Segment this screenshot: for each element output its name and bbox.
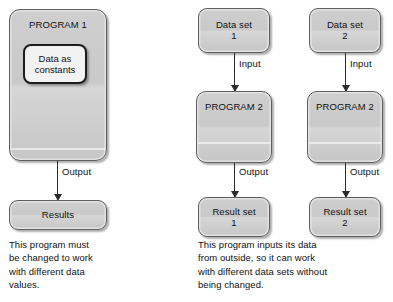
output-arrow-1-label: Output xyxy=(239,166,268,177)
data-as-constants-box: Data as constants xyxy=(23,44,87,84)
results-label: Results xyxy=(42,209,74,220)
program-2-box-2: PROGRAM 2 xyxy=(307,91,383,163)
output-arrow-2-icon xyxy=(345,163,346,197)
result-set-1-box: Result set 1 xyxy=(198,197,270,237)
input-arrow-1-icon xyxy=(234,53,235,91)
right-caption: This program inputs its data from outsid… xyxy=(198,238,388,292)
input-arrow-2-label: Input xyxy=(350,58,372,69)
output-arrow-2-label: Output xyxy=(350,166,379,177)
left-output-arrow-icon xyxy=(57,161,58,200)
program-2-label-2: PROGRAM 2 xyxy=(316,101,374,112)
data-set-2-box: Data set 2 xyxy=(309,8,381,53)
program-2-box-1: PROGRAM 2 xyxy=(196,91,272,163)
result-set-1-label: Result set 1 xyxy=(212,206,255,228)
program-2-label-1: PROGRAM 2 xyxy=(205,101,263,112)
data-set-1-label: Data set 1 xyxy=(216,19,252,41)
program-1-label: PROGRAM 1 xyxy=(29,19,87,30)
data-set-2-label: Data set 2 xyxy=(327,19,363,41)
output-arrow-1-icon xyxy=(234,163,235,197)
results-box: Results xyxy=(9,200,107,230)
data-set-1-box: Data set 1 xyxy=(198,8,270,53)
result-set-2-label: Result set 2 xyxy=(323,206,366,228)
result-set-2-box: Result set 2 xyxy=(309,197,381,237)
diagram-canvas: PROGRAM 1 Data as constants Output Resul… xyxy=(0,0,393,302)
left-caption: This program must be changed to work wit… xyxy=(9,238,129,292)
left-output-arrow-label: Output xyxy=(62,166,91,177)
input-arrow-1-label: Input xyxy=(239,58,261,69)
input-arrow-2-icon xyxy=(345,53,346,91)
program-1-box: PROGRAM 1 xyxy=(9,9,107,161)
